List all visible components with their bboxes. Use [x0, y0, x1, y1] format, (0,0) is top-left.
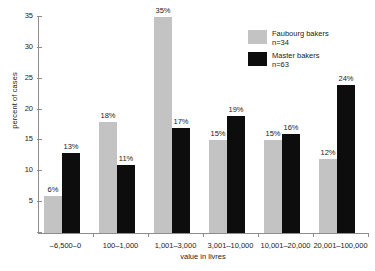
y-axis-tick-label: 10 [25, 165, 33, 174]
bar[interactable]: 15% [209, 140, 227, 233]
bar[interactable]: 16% [282, 134, 300, 233]
y-axis-tick-label: 35 [25, 11, 33, 20]
x-axis-tick-label: 100–1,000 [103, 241, 138, 250]
bar[interactable]: 19% [227, 116, 245, 233]
bar-value-label: 17% [173, 117, 188, 126]
bar[interactable]: 6% [44, 196, 62, 233]
bar[interactable]: 18% [99, 122, 117, 233]
chart-legend: Faubourg bakersn=34Master bakersn=63 [248, 30, 329, 74]
bar-value-label: 18% [100, 111, 115, 120]
legend-sample-size: n=63 [272, 61, 320, 70]
bar-value-label: 12% [320, 148, 335, 157]
legend-swatch [248, 30, 267, 44]
x-axis-tick-label: 10,001–20,000 [260, 241, 310, 250]
y-axis-tick-label: 15 [25, 134, 33, 143]
bar-value-label: 16% [283, 123, 298, 132]
y-axis-tick-label: 25 [25, 73, 33, 82]
bar[interactable]: 17% [172, 128, 190, 233]
y-axis-tick-label: 5 [29, 196, 33, 205]
bar[interactable]: 12% [319, 159, 337, 233]
bar-value-label: 35% [155, 6, 170, 15]
x-axis-tick-label: 1,001–3,000 [155, 241, 197, 250]
bar-group: 35%17% [148, 17, 203, 233]
bar-value-label: 11% [119, 154, 133, 163]
x-axis-title: value in livres [38, 252, 368, 261]
legend-label: Faubourg bakersn=34 [272, 30, 329, 47]
bar-value-label: 15% [210, 129, 225, 138]
bar[interactable]: 13% [62, 153, 80, 233]
x-axis-tick [258, 233, 259, 237]
legend-item[interactable]: Master bakersn=63 [248, 52, 329, 69]
x-axis-tick-label: 3,001–10,000 [208, 241, 254, 250]
bar[interactable]: 11% [117, 165, 135, 233]
legend-item[interactable]: Faubourg bakersn=34 [248, 30, 329, 47]
x-axis-tick [93, 233, 94, 237]
y-axis-title: percent of cases [10, 51, 19, 151]
bar[interactable]: 15% [264, 140, 282, 233]
bar-value-label: 6% [48, 185, 59, 194]
y-axis-tick-label: 30 [25, 42, 33, 51]
legend-swatch [248, 52, 267, 66]
bar-chart: percent of cases 5101520253035 6%13%18%1… [0, 0, 375, 271]
x-axis-tick [313, 233, 314, 237]
bar-group: 6%13% [38, 17, 93, 233]
bar-value-label: 15% [265, 129, 280, 138]
bar-value-label: 19% [228, 105, 243, 114]
bar-value-label: 13% [63, 142, 78, 151]
x-axis-tick [368, 233, 369, 237]
x-axis-tick-label: 20,001–100,000 [313, 241, 367, 250]
x-axis-tick-label: –6,500–0 [50, 241, 81, 250]
legend-label: Master bakersn=63 [272, 52, 320, 69]
x-axis-tick [148, 233, 149, 237]
x-axis-tick [203, 233, 204, 237]
legend-sample-size: n=34 [272, 39, 329, 48]
bar-group: 18%11% [93, 17, 148, 233]
bar[interactable]: 24% [337, 85, 355, 233]
bar-value-label: 24% [338, 74, 353, 83]
bar[interactable]: 35% [154, 17, 172, 233]
y-axis-tick-label: 20 [25, 104, 33, 113]
